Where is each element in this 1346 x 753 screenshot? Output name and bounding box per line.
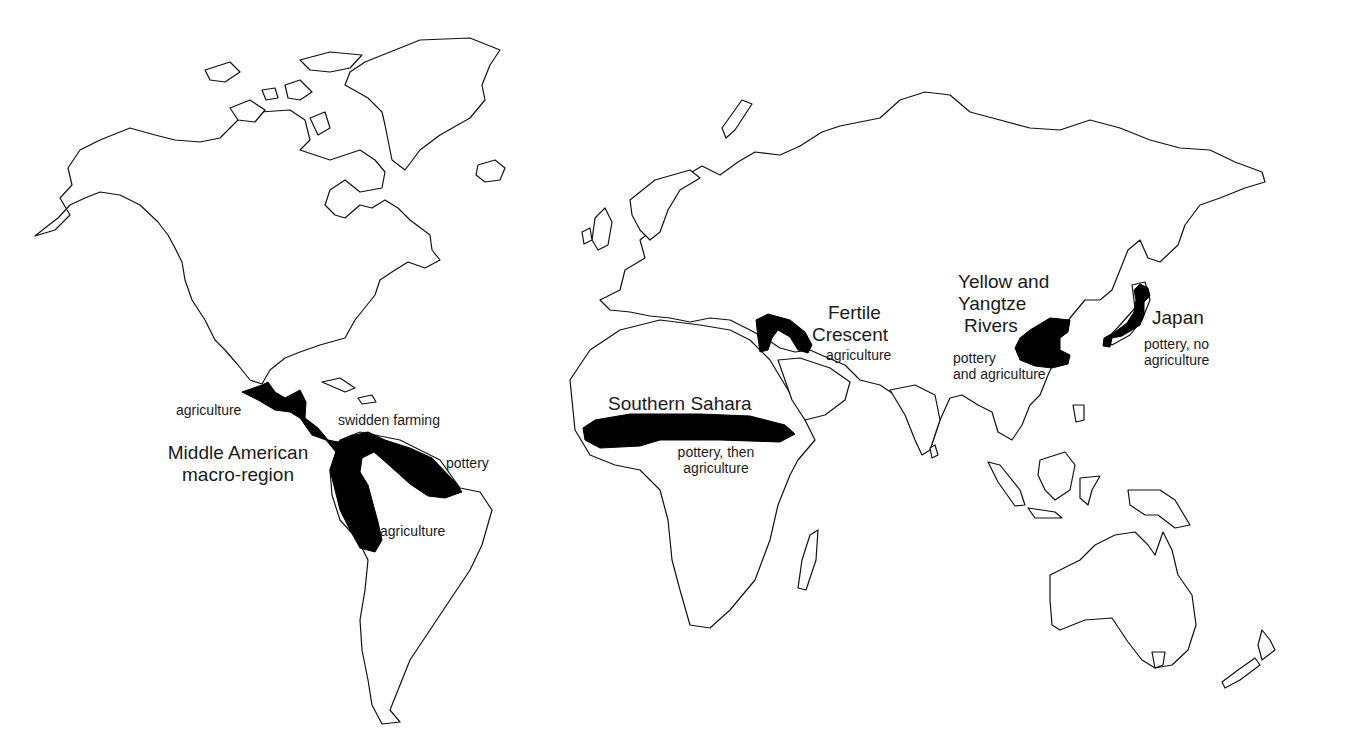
sumatra-outline <box>988 462 1025 506</box>
yellow-yangtze-note: pottery and agriculture <box>953 350 1046 382</box>
swidden-farming-label: swidden farming <box>338 412 440 428</box>
fertile-crescent-title: Fertile Crescent <box>812 302 888 346</box>
pottery-label: pottery <box>446 455 489 471</box>
arctic-island <box>300 52 362 72</box>
yellow-yangtze-title-line3: Rivers <box>958 315 1049 337</box>
arctic-island <box>205 62 240 82</box>
middle-america-title: Middle American macro-region <box>160 442 316 486</box>
southern-sahara-note-line2: agriculture <box>668 460 764 476</box>
new-guinea-outline <box>1128 490 1190 528</box>
arctic-island <box>262 88 278 100</box>
java-outline <box>1028 508 1062 518</box>
india-outline <box>890 385 940 455</box>
philippines-outline <box>1073 405 1084 422</box>
sri-lanka-outline <box>930 445 938 458</box>
yellow-yangtze-note-line2: and agriculture <box>953 366 1046 382</box>
andes-agriculture-label: agriculture <box>380 523 445 539</box>
middle-america-title-line2: macro-region <box>160 464 316 486</box>
caribbean-island <box>322 378 355 392</box>
greenland-outline <box>345 38 500 170</box>
southern-sahara-title: Southern Sahara <box>608 393 752 415</box>
japan-note: pottery, no agriculture <box>1144 336 1209 368</box>
arctic-island <box>722 100 752 138</box>
iceland-outline <box>476 160 505 182</box>
yellow-yangtze-title-line2: Yangtze <box>958 293 1049 315</box>
yellow-yangtze-note-line1: pottery <box>953 350 1046 366</box>
world-map <box>0 0 1346 753</box>
japan-title: Japan <box>1152 307 1204 329</box>
ireland-outline <box>582 228 592 244</box>
new-zealand-outline <box>1222 658 1260 688</box>
yellow-yangtze-title: Yellow and Yangtze Rivers <box>958 271 1049 337</box>
fertile-crescent-note: agriculture <box>826 347 891 363</box>
north-america-outline <box>35 110 440 384</box>
fertile-crescent-title-line1: Fertile <box>812 302 888 324</box>
madagascar-outline <box>798 530 818 590</box>
southern-sahara-note: pottery, then agriculture <box>668 444 764 476</box>
japan-note-line1: pottery, no <box>1144 336 1209 352</box>
borneo-outline <box>1038 452 1075 500</box>
southern-sahara-note-line1: pottery, then <box>668 444 764 460</box>
sulawesi-outline <box>1080 476 1100 505</box>
yellow-yangtze-title-line1: Yellow and <box>958 271 1049 293</box>
arctic-island <box>310 112 330 135</box>
japan-note-line2: agriculture <box>1144 352 1209 368</box>
arctic-island <box>285 80 312 100</box>
new-zealand-outline <box>1258 630 1275 660</box>
middle-america-title-line1: Middle American <box>160 442 316 464</box>
mexico-agriculture-label: agriculture <box>176 402 241 418</box>
caribbean-island <box>358 395 376 404</box>
australia-outline <box>1050 532 1196 668</box>
fertile-crescent-title-line2: Crescent <box>812 324 888 346</box>
tasmania-outline <box>1152 652 1165 668</box>
british-isles-outline <box>592 208 612 250</box>
